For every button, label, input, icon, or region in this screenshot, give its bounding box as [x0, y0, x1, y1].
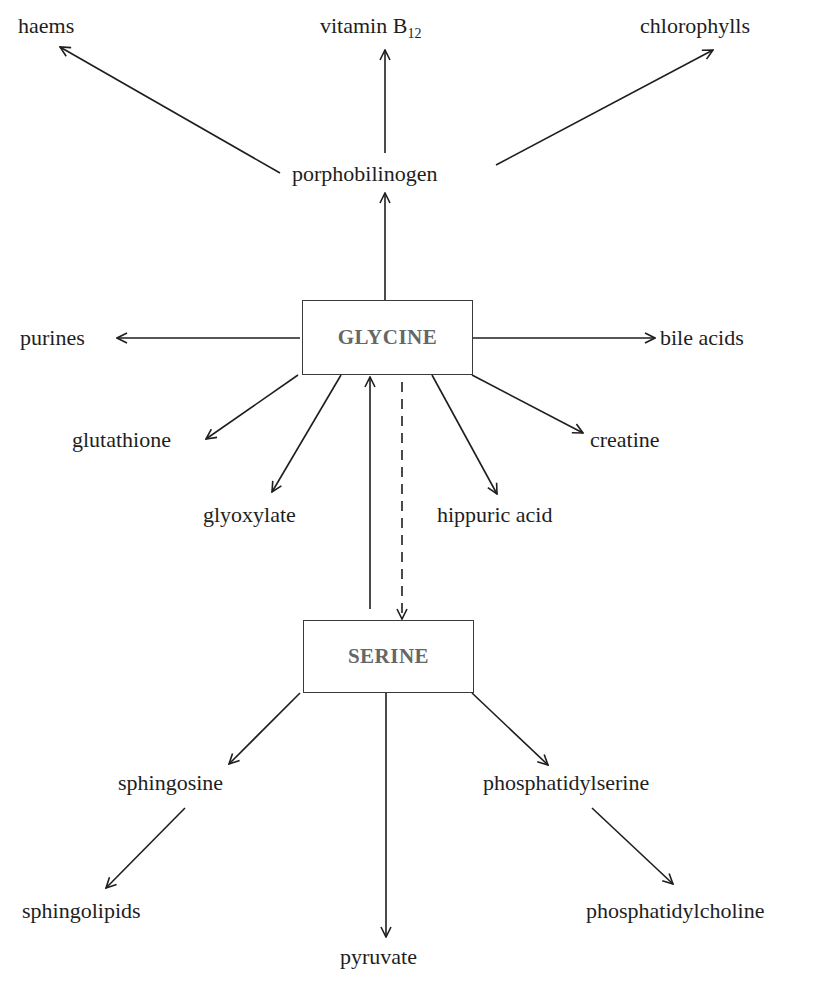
node-phosphatidylserine: phosphatidylserine	[483, 770, 649, 796]
edge-phosphatidylserine-phosphatidylcholine	[592, 808, 673, 884]
node-phosphatidylcholine: phosphatidylcholine	[586, 898, 764, 924]
glycine-serine-metabolism-diagram: GLYCINE SERINE haems vitamin B12 chlorop…	[0, 0, 833, 984]
node-pyruvate: pyruvate	[340, 944, 417, 970]
edge-serine-sphingosine	[229, 693, 300, 764]
edge-porphobilinogen-chlorophylls	[496, 50, 713, 165]
node-chlorophylls: chlorophylls	[640, 13, 750, 39]
edge-serine-phosphatidylserine	[472, 693, 548, 765]
node-haems: haems	[18, 13, 74, 39]
edge-porphobilinogen-haems	[60, 47, 280, 173]
node-hippuric-acid: hippuric acid	[437, 502, 552, 528]
node-sphingolipids: sphingolipids	[22, 898, 141, 924]
vitamin-b12-text: vitamin B	[320, 13, 407, 38]
node-glyoxylate: glyoxylate	[203, 502, 296, 528]
edge-glycine-creatine	[472, 375, 583, 433]
edge-sphingosine-sphingolipids	[106, 808, 185, 888]
serine-label: SERINE	[348, 644, 429, 669]
edges-layer	[0, 0, 833, 984]
node-glutathione: glutathione	[72, 427, 171, 453]
edge-glycine-glutathione	[206, 375, 298, 439]
vitamin-b12-subscript: 12	[407, 26, 421, 41]
node-sphingosine: sphingosine	[118, 770, 223, 796]
node-bile-acids: bile acids	[660, 325, 744, 351]
edge-glycine-glyoxylate	[272, 375, 341, 492]
node-vitamin-b12: vitamin B12	[320, 13, 421, 39]
edge-glycine-hippuricacid	[432, 375, 497, 494]
node-creatine: creatine	[590, 427, 660, 453]
node-porphobilinogen: porphobilinogen	[292, 161, 437, 187]
glycine-label: GLYCINE	[338, 325, 438, 350]
glycine-box: GLYCINE	[302, 300, 473, 375]
node-purines: purines	[20, 325, 85, 351]
serine-box: SERINE	[303, 620, 474, 693]
